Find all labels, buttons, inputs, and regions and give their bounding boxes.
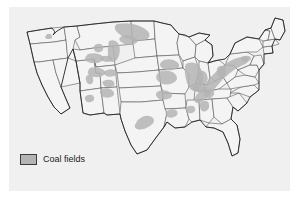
state-new-york xyxy=(230,37,263,54)
map-panel: Coal fields xyxy=(9,7,290,191)
legend-label-coal-fields: Coal fields xyxy=(43,154,85,165)
state-kansas xyxy=(117,70,161,88)
coal-gulf-coast-lignite-mississippi xyxy=(186,106,195,113)
state-florida xyxy=(206,119,240,156)
map-legend: Coal fields xyxy=(20,154,85,165)
state-minnesota xyxy=(154,21,179,56)
state-layer xyxy=(27,18,285,156)
figure-root: Coal fields xyxy=(0,0,304,204)
coal-bighorn-basin xyxy=(94,44,103,52)
coal-black-mesa xyxy=(85,95,94,102)
legend-swatch-coal-fields xyxy=(20,154,37,165)
